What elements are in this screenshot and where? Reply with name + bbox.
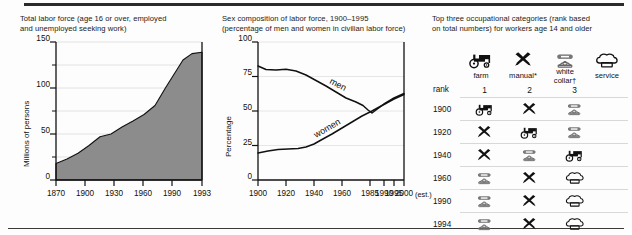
table-row: 1940 bbox=[432, 144, 628, 166]
column-label-farm: farm bbox=[460, 71, 502, 80]
crossed-tools-icon bbox=[521, 102, 537, 117]
crossed-tools-icon bbox=[521, 194, 537, 209]
table-row: 1900 bbox=[432, 98, 628, 120]
y-ticks bbox=[252, 42, 258, 180]
xtick-note-est: (est.) bbox=[415, 190, 432, 199]
ytick-150: 150 bbox=[28, 34, 50, 43]
telephone-icon bbox=[476, 172, 492, 185]
xtick-1900: 1900 bbox=[245, 189, 271, 198]
table-cell-rank-2 bbox=[507, 171, 552, 186]
ytick-50: 50 bbox=[230, 103, 252, 112]
table-cell-rank-1 bbox=[462, 195, 507, 208]
row-year-label: 1994 bbox=[432, 220, 462, 229]
tractor-icon bbox=[468, 52, 494, 69]
table-cell-rank-2 bbox=[507, 149, 552, 162]
xtick-1993: 1993 bbox=[189, 189, 215, 198]
table-cell-rank-1 bbox=[462, 148, 507, 163]
header-cell-service bbox=[586, 52, 628, 69]
xtick-1930: 1930 bbox=[101, 189, 127, 198]
row-year-label: 1900 bbox=[432, 105, 462, 114]
sex-composition-plot-area: men women bbox=[222, 39, 412, 187]
table-row: 1960 bbox=[432, 167, 628, 189]
panel-sex-composition: Sex composition of labor force, 1900–199… bbox=[222, 14, 427, 187]
table-cell-rank-2 bbox=[507, 126, 552, 139]
chef-hat-icon bbox=[565, 217, 585, 231]
table-header-label-row: farm manual* white collar† service bbox=[432, 69, 628, 82]
series-label-men-text: men bbox=[328, 76, 348, 93]
tractor-icon bbox=[520, 126, 540, 139]
series-label-men: men bbox=[328, 76, 348, 93]
table-cell-rank-1 bbox=[462, 218, 507, 231]
row-year-label: 1990 bbox=[432, 197, 462, 206]
column-label-service: service bbox=[586, 71, 628, 80]
xtick-1900: 1900 bbox=[72, 189, 98, 198]
xtick-2000: 2000 bbox=[391, 189, 417, 198]
table-body: 1900 1920 bbox=[432, 98, 628, 235]
row-year-label: 1960 bbox=[432, 174, 462, 183]
rank-value-3: 3 bbox=[552, 85, 597, 95]
table-cell-rank-3 bbox=[552, 217, 597, 231]
table-cell-rank-1 bbox=[462, 172, 507, 185]
table-row: 1990 bbox=[432, 190, 628, 212]
telephone-icon bbox=[566, 103, 582, 116]
ytick-0: 0 bbox=[230, 172, 252, 181]
header-cell-farm bbox=[460, 52, 502, 69]
table-cell-rank-3 bbox=[552, 126, 597, 139]
xtick-1940: 1940 bbox=[301, 189, 327, 198]
panel-total-labor-force: Total labor force (age 16 or over, emplo… bbox=[20, 14, 225, 187]
ytick-50: 50 bbox=[28, 126, 50, 135]
table-row: 1920 bbox=[432, 121, 628, 143]
telephone-icon bbox=[476, 195, 492, 208]
rank-value-2: 2 bbox=[507, 85, 552, 95]
chef-hat-icon bbox=[565, 194, 585, 208]
crossed-tools-icon bbox=[513, 51, 533, 69]
sex-composition-chart: Percentage 100 75 50 25 0 men bbox=[222, 39, 427, 187]
axis-label-percentage: Percentage bbox=[224, 116, 233, 157]
ytick-100: 100 bbox=[28, 80, 50, 89]
rank-row-label: rank bbox=[432, 85, 462, 94]
table-cell-rank-3 bbox=[552, 149, 597, 162]
xtick-1990: 1990 bbox=[159, 189, 185, 198]
crossed-tools-icon bbox=[476, 125, 492, 140]
table-cell-rank-3 bbox=[552, 103, 597, 116]
table-row: 1994 bbox=[432, 213, 628, 235]
telephone-icon bbox=[521, 149, 537, 162]
xtick-1960: 1960 bbox=[329, 189, 355, 198]
telephone-icon bbox=[476, 218, 492, 231]
xtick-1960: 1960 bbox=[130, 189, 156, 198]
top-rule bbox=[24, 3, 624, 6]
header-cell-manual bbox=[502, 51, 544, 69]
figure-canvas: Total labor force (age 16 or over, emplo… bbox=[0, 0, 632, 235]
xtick-1920: 1920 bbox=[273, 189, 299, 198]
table-cell-rank-3 bbox=[552, 194, 597, 208]
column-label-white-collar: white collar† bbox=[544, 67, 586, 85]
ytick-25: 25 bbox=[230, 138, 252, 147]
panel-occupations-title: Top three occupational categories (rank … bbox=[432, 14, 628, 33]
crossed-tools-icon bbox=[521, 171, 537, 186]
x-ticks bbox=[258, 180, 404, 186]
area-series-total-labor bbox=[56, 52, 202, 180]
x-ticks bbox=[56, 180, 202, 186]
table-cell-rank-2 bbox=[507, 102, 552, 117]
tractor-icon bbox=[565, 149, 585, 162]
panel-sex-composition-title: Sex composition of labor force, 1900–199… bbox=[222, 14, 427, 33]
occupations-table: farm manual* white collar† service rank … bbox=[432, 45, 628, 235]
ytick-0: 0 bbox=[28, 172, 50, 181]
chef-hat-icon bbox=[565, 171, 585, 185]
telephone-icon bbox=[566, 126, 582, 139]
panel-occupational-categories: Top three occupational categories (rank … bbox=[432, 14, 628, 235]
crossed-tools-icon bbox=[476, 148, 492, 163]
chef-hat-icon bbox=[595, 52, 619, 69]
xtick-1870: 1870 bbox=[43, 189, 69, 198]
panel-total-labor-force-title: Total labor force (age 16 or over, emplo… bbox=[20, 14, 225, 33]
table-cell-rank-1 bbox=[462, 103, 507, 116]
column-label-manual: manual* bbox=[502, 71, 544, 80]
table-cell-rank-2 bbox=[507, 217, 552, 232]
table-cell-rank-3 bbox=[552, 171, 597, 185]
table-cell-rank-1 bbox=[462, 125, 507, 140]
rank-value-1: 1 bbox=[462, 85, 507, 95]
row-year-label: 1940 bbox=[432, 151, 462, 160]
ytick-75: 75 bbox=[230, 68, 252, 77]
table-header-icon-row bbox=[432, 45, 628, 69]
total-labor-force-chart: Millions of persons 150 100 50 0 bbox=[20, 39, 225, 187]
